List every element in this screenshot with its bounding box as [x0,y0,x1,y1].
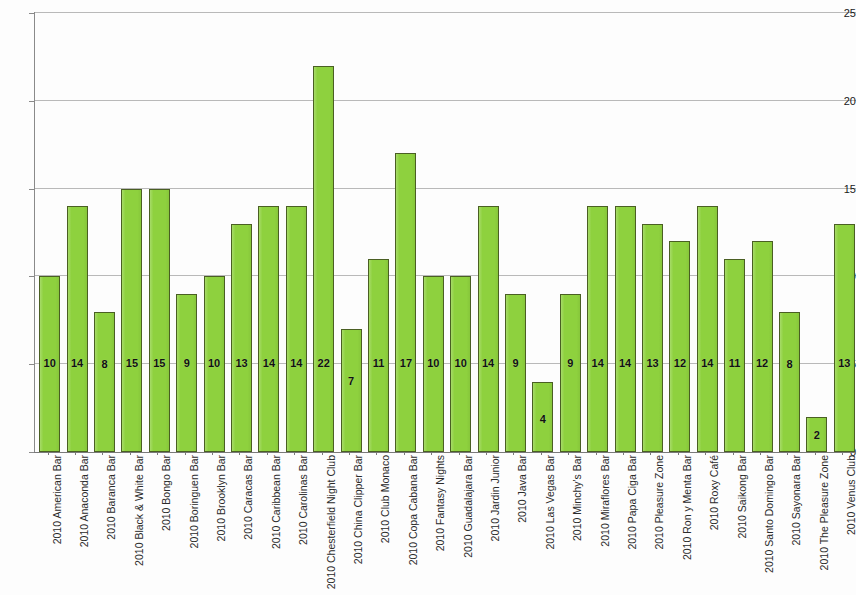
x-tick-label: 2010 Java Bar [517,455,528,523]
bar-value-label: 8 [779,359,800,370]
bar[interactable] [368,259,389,452]
x-tick-mark [513,452,514,455]
x-axis-labels: 2010 American Bar2010 Anaconda Bar2010 B… [34,455,856,595]
x-tick-label: 2010 Chesterfield Night Club [326,455,337,589]
x-tick-label: 2010 Club Monaco [380,455,391,543]
x-tick-mark [568,452,569,455]
bar-slot: 4 [532,13,553,452]
x-tick-mark [596,452,597,455]
x-tick-label: 2010 Minchy's Bar [572,455,583,541]
x-tick-label: 2010 Jardin Junior [490,455,501,541]
x-tick-mark [322,452,323,455]
bar[interactable] [724,259,745,452]
bar[interactable] [176,294,197,452]
bar-value-label: 2 [806,430,827,441]
bar[interactable] [121,189,142,452]
bar[interactable] [505,294,526,452]
bar-slot: 14 [258,13,279,452]
bar-slot: 13 [834,13,855,452]
x-tick-label: 2010 Miraflores Bar [600,455,611,547]
x-tick-mark [294,452,295,455]
bar[interactable] [149,189,170,452]
bar-slot: 17 [395,13,416,452]
bar-slot: 7 [341,13,362,452]
x-tick-label: 2010 Saikong Bar [737,455,748,538]
bar[interactable] [67,206,88,452]
bar-value-label: 14 [478,358,499,369]
bar[interactable] [313,66,334,452]
bar[interactable] [286,206,307,452]
x-tick-label: 2010 American Bar [52,455,63,544]
bar[interactable] [231,224,252,452]
x-tick-mark [349,452,350,455]
x-tick-mark [48,452,49,455]
bar-slot: 12 [752,13,773,452]
bar[interactable] [478,206,499,452]
bar-slot: 11 [368,13,389,452]
bar-slot: 14 [478,13,499,452]
bar[interactable] [752,241,773,452]
bar[interactable] [697,206,718,452]
x-tick-label: 2010 Baranca Bar [106,455,117,540]
x-tick-label: 2010 Sayonara Bar [791,455,802,545]
x-tick-label: 2010 Ron y Menta Bar [682,455,693,560]
bar[interactable] [341,329,362,452]
bar-value-label: 12 [752,358,773,369]
bar-value-label: 17 [395,358,416,369]
bar[interactable] [94,312,115,452]
bar-series: 1014815159101314142271117101014949141413… [34,13,856,452]
bar-value-label: 14 [67,358,88,369]
bar-value-label: 9 [176,358,197,369]
bar-value-label: 10 [204,358,225,369]
x-tick-mark [650,452,651,455]
x-tick-label: 2010 Anaconda Bar [79,455,90,547]
bar-slot: 9 [176,13,197,452]
x-tick-mark [239,452,240,455]
x-tick-mark [623,452,624,455]
x-tick-mark [102,452,103,455]
bar-value-label: 14 [697,358,718,369]
bar-value-label: 13 [231,358,252,369]
bar[interactable] [258,206,279,452]
x-tick-label: 2010 Boringuen Bar [189,455,200,548]
bar[interactable] [615,206,636,452]
x-tick-label: 2010 Fantasy Nights [435,455,446,551]
x-tick-mark [75,452,76,455]
bar[interactable] [779,312,800,452]
bar-value-label: 8 [94,359,115,370]
bar[interactable] [587,206,608,452]
bar[interactable] [560,294,581,452]
bar-value-label: 10 [39,358,60,369]
x-tick-mark [212,452,213,455]
x-tick-label: 2010 Las Vegas Bar [545,455,556,550]
x-tick-label: 2010 Bongo Bar [161,455,172,531]
bar-slot: 14 [286,13,307,452]
bar-slot: 8 [94,13,115,452]
bar-value-label: 7 [341,376,362,387]
x-tick-label: 2010 China Clipper Bar [353,455,364,564]
bar-slot: 10 [204,13,225,452]
x-tick-mark [787,452,788,455]
bar-slot: 8 [779,13,800,452]
x-tick-label: 2010 Venus Club [846,455,857,535]
bar-slot: 15 [121,13,142,452]
bar-value-label: 15 [149,358,170,369]
bar-slot: 10 [39,13,60,452]
bar[interactable] [642,224,663,452]
bar-slot: 15 [149,13,170,452]
bar-value-label: 10 [423,358,444,369]
x-tick-mark [185,452,186,455]
bar-slot: 14 [615,13,636,452]
bar-value-label: 4 [532,414,553,425]
bar-value-label: 9 [560,358,581,369]
bar[interactable] [669,241,690,452]
x-tick-mark [376,452,377,455]
bar-slot: 13 [231,13,252,452]
bar[interactable] [834,224,855,452]
x-tick-mark [130,452,131,455]
bar[interactable] [395,153,416,452]
x-tick-mark [678,452,679,455]
x-tick-label: 2010 Pleasure Zone [654,455,665,550]
bar-value-label: 14 [615,358,636,369]
